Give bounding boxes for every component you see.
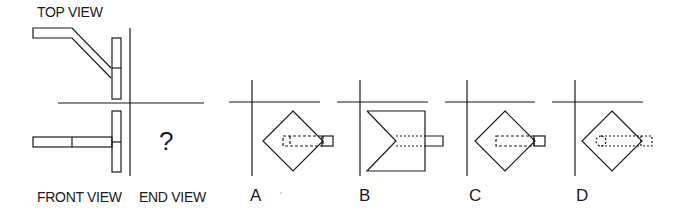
stray-dot (280, 192, 282, 194)
front-view-plate (112, 111, 121, 172)
option-c-label[interactable]: C (469, 186, 481, 206)
front-view-bar (33, 137, 112, 147)
top-view-bent-bar (33, 28, 111, 78)
drawing-canvas (0, 0, 682, 213)
top-view-label: TOP VIEW (37, 4, 103, 20)
option-c-figure[interactable] (445, 80, 545, 176)
top-view-plate (112, 38, 121, 99)
end-view-label: END VIEW (139, 189, 206, 205)
option-a-label[interactable]: A (250, 186, 261, 206)
option-a-figure[interactable] (229, 80, 333, 176)
option-b-figure[interactable] (337, 80, 443, 176)
option-d-label[interactable]: D (576, 186, 588, 206)
unknown-end-view-marker: ? (159, 126, 173, 157)
option-b-label[interactable]: B (359, 186, 370, 206)
front-view-label: FRONT VIEW (37, 189, 122, 205)
option-d-figure[interactable] (552, 80, 652, 176)
